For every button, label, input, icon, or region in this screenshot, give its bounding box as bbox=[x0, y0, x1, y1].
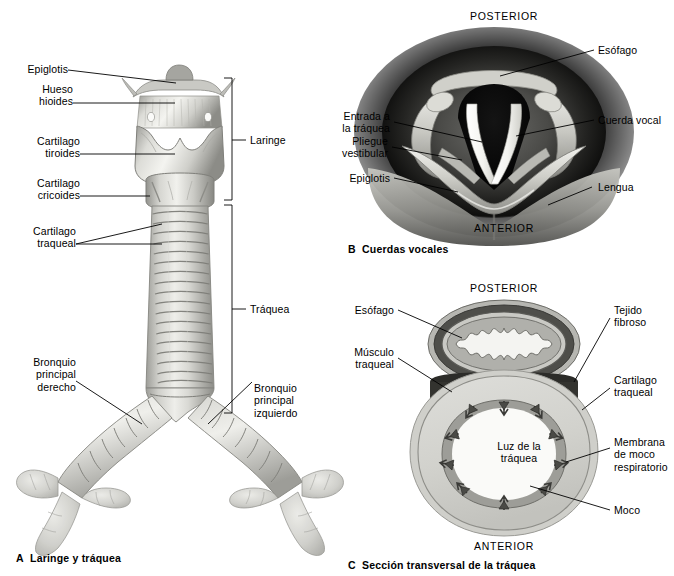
panel-a-larynx-trachea: Epiglotis Hueso hioides Cartilago tiroid… bbox=[0, 0, 340, 576]
thyrohyoid-membrane bbox=[137, 96, 222, 128]
label-entrada-traquea: Entrada a la tráquea bbox=[334, 110, 390, 135]
label-cartilago-cricoides: Cartilago cricoides bbox=[8, 177, 80, 202]
bracket-traquea bbox=[224, 205, 246, 413]
label-cartilago-tiroides: Cartilago tiroides bbox=[8, 135, 80, 160]
caption-panel-a: A Laringe y tráquea bbox=[16, 552, 121, 564]
orientation-posterior-c: POSTERIOR bbox=[334, 282, 674, 294]
orientation-posterior-b: POSTERIOR bbox=[334, 10, 674, 22]
label-esofago-c: Esófago bbox=[334, 304, 394, 316]
caption-letter-a: A bbox=[16, 552, 24, 564]
panel-c-illustration bbox=[334, 296, 674, 556]
caption-text-c: Sección transversal de la tráquea bbox=[362, 559, 536, 571]
label-cartilago-traqueal-c: Cartilago traqueal bbox=[614, 374, 657, 399]
label-epiglotis-a: Epiglotis bbox=[8, 63, 68, 75]
label-bronquio-principal-derecho: Bronquio principal derecho bbox=[8, 356, 76, 393]
orientation-anterior-b: ANTERIOR bbox=[334, 222, 674, 234]
caption-letter-c: C bbox=[348, 559, 356, 571]
bracket-label-traquea: Tráquea bbox=[250, 303, 289, 315]
caption-panel-c: C Sección transversal de la tráquea bbox=[348, 559, 536, 571]
label-musculo-traqueal: Músculo traqueal bbox=[334, 346, 394, 371]
caption-panel-b: B Cuerdas vocales bbox=[348, 243, 449, 255]
orientation-anterior-c: ANTERIOR bbox=[334, 540, 674, 552]
bracket-label-laringe: Laringe bbox=[250, 134, 286, 146]
label-cuerda-vocal: Cuerda vocal bbox=[598, 114, 661, 126]
label-esofago-b: Esófago bbox=[598, 44, 637, 56]
bracket-laringe bbox=[224, 78, 246, 200]
cricoid-cartilage bbox=[146, 173, 214, 210]
label-moco: Moco bbox=[614, 504, 640, 516]
caption-text-b: Cuerdas vocales bbox=[362, 243, 448, 255]
label-lengua: Lengua bbox=[598, 181, 634, 193]
label-membrana-moco-respiratorio: Membrana de moco respiratorio bbox=[614, 436, 668, 473]
caption-letter-b: B bbox=[348, 243, 356, 255]
label-luz-de-la-traquea: Luz de la tráquea bbox=[474, 440, 564, 465]
label-cartilago-traqueal-a: Cartilago traqueal bbox=[8, 225, 76, 250]
label-tejido-fibroso: Tejido fibroso bbox=[614, 304, 646, 329]
epiglottis bbox=[166, 65, 193, 80]
panel-c-trachea-cross-section: POSTERIOR bbox=[334, 262, 674, 576]
label-hueso-hioides: Hueso hioides bbox=[8, 83, 73, 108]
right-main-bronchus bbox=[58, 396, 172, 498]
label-pliegue-vestibular: Pliegue vestibular bbox=[334, 135, 388, 160]
caption-text-a: Laringe y tráquea bbox=[30, 552, 121, 564]
trachea bbox=[146, 206, 214, 388]
panel-b-vocal-cords: POSTERIOR bbox=[334, 0, 674, 262]
label-bronquio-principal-izquierdo: Bronquio principal izquierdo bbox=[254, 382, 332, 419]
hyoid-bone bbox=[122, 78, 235, 97]
label-epiglotis-b: Epiglotis bbox=[334, 172, 390, 184]
